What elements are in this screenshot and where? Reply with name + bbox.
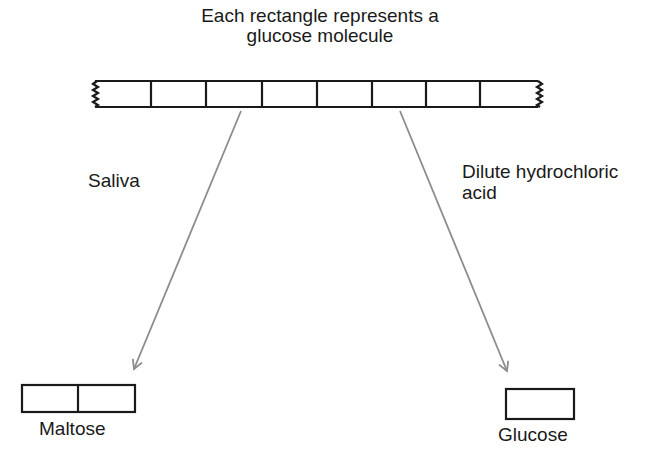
diagram-graphics xyxy=(0,0,668,459)
broken-end-right-icon xyxy=(537,81,542,107)
reagent-acid-line-1: Dilute hydrochloric xyxy=(462,161,618,182)
reagent-acid-line-2: acid xyxy=(462,182,618,203)
title-line-1: Each rectangle represents a xyxy=(0,6,640,26)
arrow-saliva xyxy=(134,111,241,369)
reagent-label-acid: Dilute hydrochloric acid xyxy=(462,161,618,203)
product-label-glucose: Glucose xyxy=(498,425,568,445)
glucose-molecule xyxy=(506,389,574,419)
reagent-label-saliva: Saliva xyxy=(88,171,140,191)
arrow-acid xyxy=(400,111,507,371)
product-label-maltose: Maltose xyxy=(39,419,106,439)
starch-chain xyxy=(93,81,542,107)
title-line-2: glucose molecule xyxy=(0,26,640,46)
broken-end-left-icon xyxy=(93,81,98,107)
diagram-title: Each rectangle represents a glucose mole… xyxy=(0,6,640,46)
diagram-canvas: Each rectangle represents a glucose mole… xyxy=(0,0,668,459)
maltose-molecule xyxy=(22,385,135,412)
